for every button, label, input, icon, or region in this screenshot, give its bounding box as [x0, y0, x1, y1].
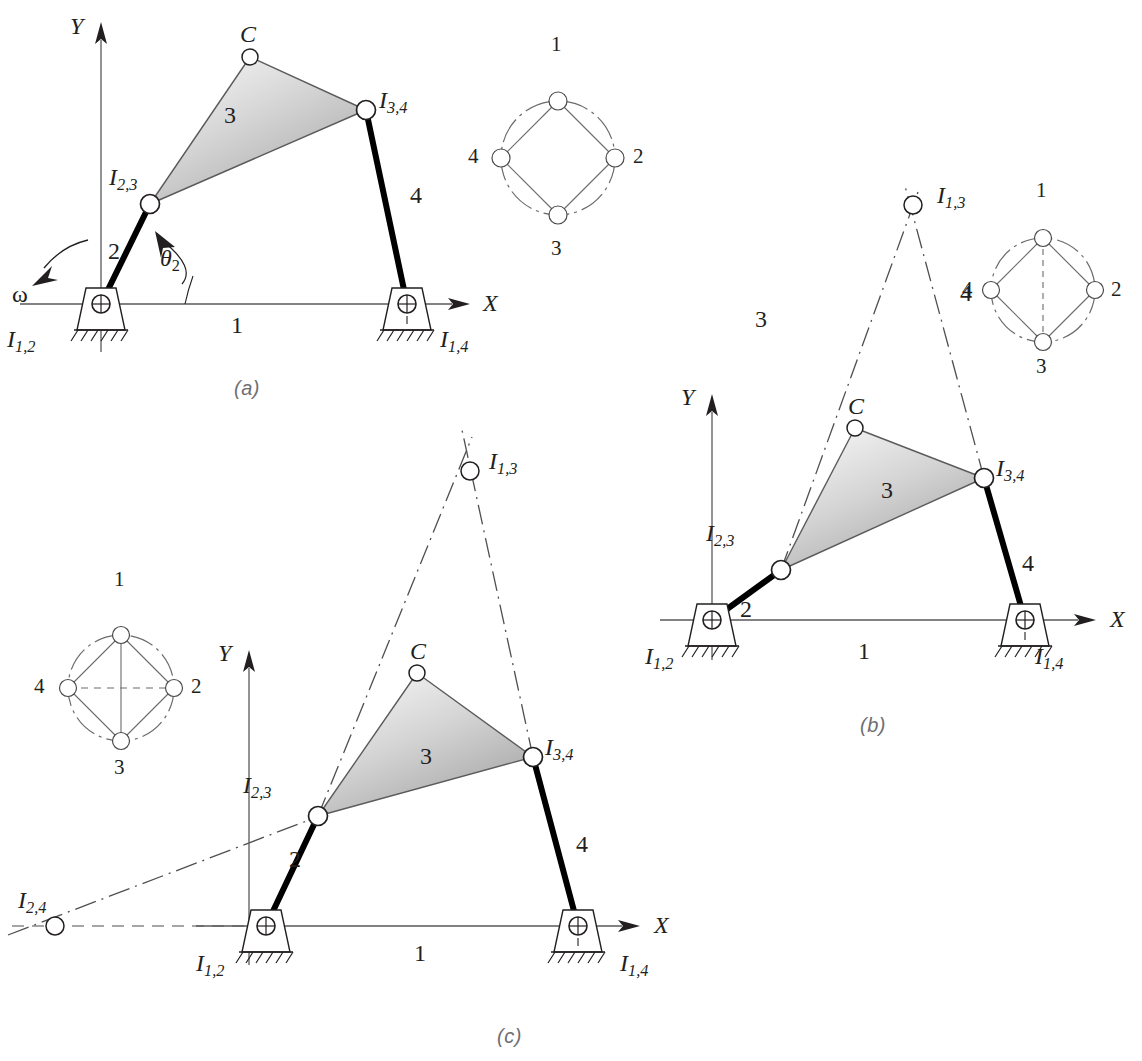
panel-a-ic-23-label: I2,3 — [109, 165, 137, 194]
panel-b-ic-23-label: I2,3 — [706, 521, 734, 550]
panel-b-axis-x-label: X — [1110, 607, 1125, 631]
panel-b-circle-node-4-label: 4 — [962, 279, 973, 300]
panel-c-joint-C — [409, 665, 425, 681]
panel-a-circle-node-2-label: 2 — [633, 146, 644, 167]
panel-c-link2-label: 2 — [289, 847, 301, 871]
panel-c-joint-I24 — [46, 917, 64, 935]
ic-symbol: I — [620, 950, 628, 976]
panel-a-circle-node-3-label: 3 — [551, 238, 562, 259]
ic-sub: 1,4 — [628, 961, 648, 980]
panel-c-point-c-label: C — [410, 639, 426, 663]
ic-symbol: I — [18, 887, 26, 913]
panel-a-coupler-link-3 — [150, 57, 366, 204]
panel-b-joint-I23 — [772, 561, 791, 580]
panel-c-ic-13-label: I1,3 — [489, 449, 517, 478]
ic-sub: 2,3 — [251, 783, 271, 802]
panel-c-circle-node-1-label: 1 — [114, 569, 125, 590]
panel-a-axis-x-label: X — [483, 291, 498, 315]
panel-b-ic-34-label: I3,4 — [996, 456, 1024, 485]
panel-c-joint-I34 — [524, 748, 543, 767]
panel-b-outer-3-label: 3 — [755, 307, 767, 331]
panel-b-ground-pivot-left — [682, 604, 739, 657]
panel-a-omega-label: ω — [12, 282, 28, 306]
panel-c-tag: (c) — [497, 1025, 522, 1048]
panel-b-ic-14-label: I1,4 — [1035, 644, 1063, 673]
panel-c-link4-label: 4 — [576, 832, 588, 856]
panel-a-circle-node-4-label: 4 — [468, 146, 479, 167]
ic-symbol: I — [996, 455, 1004, 481]
panel-c-circle-node-4-label: 4 — [34, 676, 45, 697]
ic-sub: 1,2 — [15, 337, 35, 356]
ic-symbol: I — [243, 772, 251, 798]
panel-a-axis-y-label: Y — [70, 14, 83, 38]
ic-sub: 1,2 — [204, 961, 224, 980]
panel-b-joint-C — [847, 420, 863, 436]
panel-a-circle-node-1-label: 1 — [551, 34, 562, 55]
panel-a-link4-label: 4 — [410, 183, 422, 207]
panel-b-tag: (b) — [860, 714, 886, 737]
ic-symbol: I — [545, 734, 553, 760]
ic-sub: 3,4 — [387, 98, 407, 117]
ic-sub: 3,4 — [1004, 466, 1024, 485]
panel-b-link2-label: 2 — [740, 597, 752, 621]
figure-vector-layer — [0, 0, 1142, 1061]
panel-b-link3-label: 3 — [881, 478, 893, 502]
panel-b-ground-label: 1 — [858, 639, 870, 663]
ic-sub: 2,3 — [117, 175, 137, 194]
panel-b-point-c-label: C — [848, 394, 864, 418]
panel-b-circle-diagram — [983, 230, 1104, 351]
ic-symbol: I — [706, 520, 714, 546]
panel-b-axis-y-label: Y — [681, 385, 694, 409]
ic-symbol: I — [379, 87, 387, 113]
panel-a-ground-pivot-left — [71, 288, 128, 341]
panel-a-link-4 — [366, 110, 407, 304]
ic-sub: 1,4 — [1043, 654, 1063, 673]
panel-a-joint-I34 — [357, 101, 376, 120]
panel-a-link3-label: 3 — [224, 103, 236, 127]
ic-symbol: I — [1035, 643, 1043, 669]
ic-sub: 2,3 — [714, 531, 734, 550]
panel-c-ic-14-label: I1,4 — [620, 951, 648, 980]
panel-a-circle-diagram — [492, 92, 624, 224]
panel-a-ground-label: 1 — [231, 313, 243, 337]
panel-b-joint-I34 — [975, 469, 994, 488]
panel-c-axis-x-label: X — [654, 913, 669, 937]
panel-c-ground-label: 1 — [414, 941, 426, 965]
panel-c-circle-node-3-label: 3 — [114, 757, 125, 778]
panel-c-link-4 — [533, 757, 578, 926]
panel-c-ic-24-label: I2,4 — [18, 888, 46, 917]
panel-c-ic-34-label: I3,4 — [545, 735, 573, 764]
panel-b-joint-I13 — [904, 196, 922, 214]
panel-a-theta2-label: θ2 — [160, 246, 180, 275]
panel-c-ic-23-label: I2,3 — [243, 773, 271, 802]
panel-a-ic-12-label: I1,2 — [7, 327, 35, 356]
panel-b-circle-node-1-label: 1 — [1036, 180, 1047, 201]
panel-a-joint-C — [242, 49, 258, 65]
panel-b-ic-13-label: I1,3 — [937, 183, 965, 212]
panel-c-joint-I13 — [461, 462, 479, 480]
panel-b-graphics — [660, 186, 1104, 660]
panel-c-joint-I23 — [309, 807, 328, 826]
ic-symbol: I — [196, 950, 204, 976]
figure-canvas: Y X C 3 2 4 1 ω θ2 I1,2 I2,3 I3,4 I1,4 1… — [0, 0, 1142, 1061]
panel-a-omega-arrow — [32, 240, 88, 286]
panel-c-circle-diagram — [60, 627, 183, 750]
ic-sub: 1,3 — [945, 193, 965, 212]
panel-a-point-c-label: C — [240, 22, 256, 46]
panel-c-circle-node-2-label: 2 — [191, 676, 202, 697]
ic-sub: 1,3 — [497, 459, 517, 478]
ic-sub: 3,4 — [553, 745, 573, 764]
ic-sub: 1,4 — [448, 337, 468, 356]
panel-a-ic-14-label: I1,4 — [440, 327, 468, 356]
panel-b-link-4 — [984, 478, 1025, 620]
panel-c-graphics — [8, 430, 640, 965]
panel-b-circle-node-2-label: 2 — [1111, 279, 1122, 300]
panel-c-ground-pivot-left — [236, 910, 293, 963]
ic-symbol: I — [489, 448, 497, 474]
panel-a-theta-sub: 2 — [172, 256, 180, 275]
panel-a-link2-label: 2 — [108, 239, 120, 263]
ic-symbol: I — [440, 326, 448, 352]
ic-sub: 2,4 — [26, 898, 46, 917]
panel-c-ground-pivot-right — [548, 910, 605, 963]
ic-symbol: I — [645, 643, 653, 669]
